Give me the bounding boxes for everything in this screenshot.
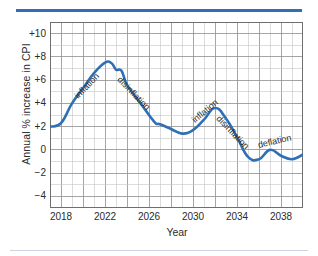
x-tick-label: 2030 [173,212,213,222]
x-tick-label: 2022 [85,212,125,222]
y-tick-label: −2 [18,168,46,178]
x-tick-label: 2038 [261,212,301,222]
cpi-line-chart: Annual % increase in CPI +10+8+6+4+20−2−… [0,14,318,246]
y-axis-tick-labels: +10+8+6+4+20−2−4 [16,14,46,214]
y-tick-label: +10 [18,29,46,39]
x-axis-tick-labels: 201820222026203020342038 [0,212,318,226]
x-tick-label: 2018 [41,212,81,222]
y-tick-label: +6 [18,75,46,85]
top-decorative-rule [16,9,302,12]
y-tick-label: −4 [18,191,46,201]
plot-area: inflationdisinflationinflationdisinflati… [50,22,303,208]
x-tick-label: 2026 [129,212,169,222]
y-tick-label: +8 [18,52,46,62]
x-tick-label: 2034 [217,212,257,222]
y-tick-label: 0 [18,145,46,155]
bottom-decorative-rule [10,250,308,251]
y-tick-label: +2 [18,122,46,132]
x-axis-title: Year [50,226,304,238]
y-tick-label: +4 [18,98,46,108]
